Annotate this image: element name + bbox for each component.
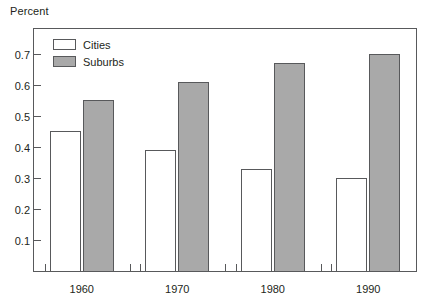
x-axis-tick	[236, 264, 237, 271]
y-axis-tick-label: 0.6	[15, 80, 30, 92]
y-axis-tick: 0.5	[34, 116, 41, 117]
y-axis-tick: 0.3	[34, 178, 41, 179]
x-axis-tick	[321, 264, 322, 271]
y-axis-tick: 0.6	[34, 85, 41, 86]
y-axis-tick-label: 0.7	[15, 49, 30, 61]
legend-label-cities: Cities	[83, 39, 111, 51]
bar-chart-figure: Percent 0.10.20.30.40.50.60.7 1960197019…	[0, 0, 429, 301]
y-axis-tick: 0.1	[34, 240, 41, 241]
x-axis-tick-label: 1990	[356, 283, 380, 295]
legend-item-suburbs: Suburbs	[53, 54, 124, 69]
y-axis-title: Percent	[10, 5, 49, 17]
bar-suburbs-1990	[369, 54, 400, 271]
x-axis-tick	[331, 264, 332, 271]
x-axis-tick-label: 1960	[70, 283, 94, 295]
plot-area: 0.10.20.30.40.50.60.7 1960197019801990 C…	[33, 28, 417, 272]
y-axis-tick: 0.7	[34, 54, 41, 55]
x-axis-tick	[45, 264, 46, 271]
legend-label-suburbs: Suburbs	[83, 56, 124, 68]
legend-swatch-cities-icon	[53, 39, 76, 50]
x-axis-tick	[225, 264, 226, 271]
x-axis-tick-label: 1980	[261, 283, 285, 295]
chart-legend: Cities Suburbs	[53, 37, 124, 71]
y-axis-tick-label: 0.3	[15, 173, 30, 185]
bar-cities-1990	[336, 178, 367, 271]
y-axis-tick-label: 0.5	[15, 111, 30, 123]
legend-item-cities: Cities	[53, 37, 124, 52]
bar-suburbs-1970	[178, 82, 209, 271]
bar-cities-1970	[145, 150, 176, 271]
bar-suburbs-1960	[83, 100, 114, 271]
bar-suburbs-1980	[274, 63, 305, 271]
y-axis-tick-label: 0.4	[15, 142, 30, 154]
legend-swatch-suburbs-icon	[53, 56, 76, 67]
x-axis-tick	[130, 264, 131, 271]
x-axis-tick	[140, 264, 141, 271]
y-axis-tick: 0.4	[34, 147, 41, 148]
x-axis-tick-label: 1970	[165, 283, 189, 295]
y-axis-tick-label: 0.2	[15, 204, 30, 216]
y-axis-tick: 0.2	[34, 209, 41, 210]
bar-cities-1980	[241, 169, 272, 271]
y-axis-tick-label: 0.1	[15, 235, 30, 247]
bar-cities-1960	[50, 131, 81, 271]
